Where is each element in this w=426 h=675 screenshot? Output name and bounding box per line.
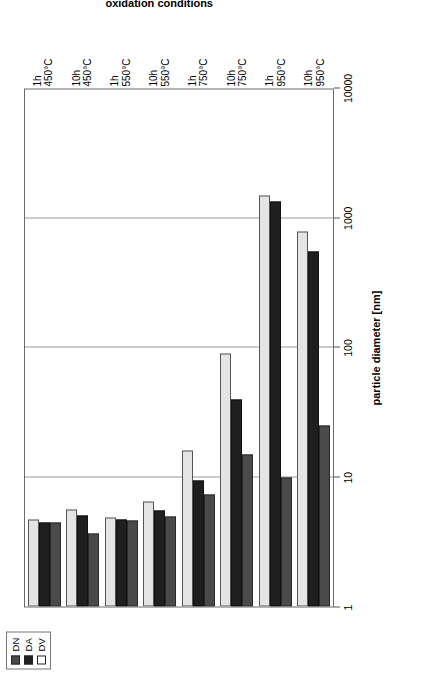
bar-dv	[220, 353, 231, 606]
bar-dv	[66, 509, 77, 606]
category-label: 10h550°C	[140, 10, 179, 86]
bar-dn	[204, 494, 215, 606]
bar-dn	[281, 477, 292, 606]
bars-layer	[25, 89, 333, 606]
bar-dv	[182, 450, 193, 606]
axis-tick	[334, 217, 340, 218]
bar-group	[102, 89, 141, 606]
bar-da	[77, 515, 88, 606]
bar-da	[39, 522, 50, 606]
bar-da	[193, 480, 204, 606]
plot-area	[24, 88, 334, 607]
bar-dv	[297, 231, 308, 606]
bar-dn	[50, 522, 61, 606]
category-duration: 1h	[32, 10, 44, 86]
category-temperature: 550°C	[160, 10, 172, 86]
legend-label: DV	[37, 637, 46, 651]
category-temperature: 450°C	[43, 10, 55, 86]
category-axis-title: oxidation conditions	[105, 0, 213, 8]
bar-dv	[143, 501, 154, 606]
bar-da	[231, 399, 242, 606]
category-label: 1h950°C	[257, 10, 296, 86]
category-label: 10h450°C	[63, 10, 102, 86]
bar-group	[64, 89, 103, 606]
category-duration: 10h	[226, 10, 238, 86]
axis-tick-label: 10	[342, 471, 354, 483]
legend-swatch-icon	[37, 655, 46, 664]
axis-tick	[334, 606, 340, 607]
bar-group	[25, 89, 64, 606]
axis-tick	[334, 87, 340, 88]
category-duration: 10h	[71, 10, 83, 86]
category-temperature: 750°C	[198, 10, 210, 86]
bar-dn	[127, 520, 138, 606]
bar-da	[116, 519, 127, 606]
bar-dn	[88, 533, 99, 606]
category-label: 1h550°C	[102, 10, 141, 86]
bar-da	[270, 201, 281, 606]
category-duration: 10h	[303, 10, 315, 86]
bar-dv	[259, 196, 270, 607]
bar-group	[256, 89, 295, 606]
bar-group	[179, 89, 218, 606]
bar-dn	[165, 516, 176, 606]
rotated-chart-stage: DNDADV 110100100010000 particle diameter…	[0, 0, 426, 675]
chart-figure: DNDADV 110100100010000 particle diameter…	[0, 0, 426, 675]
legend-swatch-icon	[11, 655, 20, 664]
axis-tick-label: 10000	[342, 73, 354, 102]
axis-tick	[334, 347, 340, 348]
category-duration: 1h	[264, 10, 276, 86]
category-temperature: 950°C	[276, 10, 288, 86]
category-temperature: 450°C	[82, 10, 94, 86]
chart-legend: DNDADV	[6, 631, 51, 669]
category-label: 1h450°C	[24, 10, 63, 86]
bar-da	[308, 251, 319, 606]
axis-tick-label: 100	[342, 339, 354, 357]
legend-swatch-icon	[24, 655, 33, 664]
axis-tick-label: 1	[342, 604, 354, 610]
category-label: 1h750°C	[179, 10, 218, 86]
category-temperature: 950°C	[315, 10, 327, 86]
value-axis-title: particle diameter [nm]	[370, 88, 382, 607]
category-temperature: 750°C	[237, 10, 249, 86]
plot-frame	[24, 88, 334, 607]
category-temperature: 550°C	[121, 10, 133, 86]
bar-dn	[319, 425, 330, 606]
category-axis-labels: 1h450°C10h450°C1h550°C10h550°C1h750°C10h…	[24, 6, 334, 86]
bar-dv	[105, 517, 116, 606]
bar-group	[141, 89, 180, 606]
legend-item-dn: DN	[10, 637, 21, 664]
category-label: 10h750°C	[218, 10, 257, 86]
axis-tick	[334, 476, 340, 477]
axis-tick-label: 1000	[342, 206, 354, 229]
legend-item-da: DA	[23, 637, 34, 664]
legend-label: DA	[24, 637, 33, 651]
bar-dv	[28, 519, 39, 606]
bar-da	[154, 510, 165, 606]
bar-group	[295, 89, 334, 606]
legend-item-dv: DV	[36, 637, 47, 664]
category-duration: 10h	[148, 10, 160, 86]
bar-dn	[242, 454, 253, 606]
category-duration: 1h	[187, 10, 199, 86]
category-duration: 1h	[109, 10, 121, 86]
bar-group	[218, 89, 257, 606]
category-label: 10h950°C	[295, 10, 334, 86]
legend-label: DN	[11, 637, 20, 651]
